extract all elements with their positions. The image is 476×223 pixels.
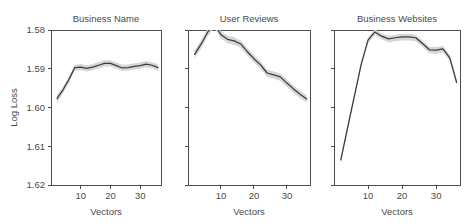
x-tick-label: 30 [431, 190, 442, 201]
x-tick-label: 10 [363, 190, 374, 201]
y-tick-label: 1.59 [27, 63, 46, 74]
y-tick-label: 1.58 [27, 24, 46, 35]
x-axis-title: Vectors [90, 206, 122, 217]
x-axis-title: Vectors [233, 206, 265, 217]
x-tick-label: 10 [216, 190, 227, 201]
panel-title: Business Websites [357, 13, 437, 24]
y-tick-label: 1.62 [27, 179, 46, 190]
y-tick-label: 1.61 [27, 141, 46, 152]
x-tick-label: 20 [397, 190, 408, 201]
y-axis-title: Log Loss [8, 88, 19, 127]
panel-title: Business Name [73, 13, 140, 24]
x-tick-label: 20 [249, 190, 260, 201]
x-tick-label: 20 [105, 190, 116, 201]
x-tick-label: 10 [75, 190, 86, 201]
figure-container: Business Name1.581.591.601.611.62102030V… [0, 0, 476, 223]
multi-panel-line-chart: Business Name1.581.591.601.611.62102030V… [0, 0, 476, 223]
y-tick-label: 1.60 [27, 102, 46, 113]
panel-title: User Reviews [220, 13, 279, 24]
x-axis-title: Vectors [381, 206, 413, 217]
x-tick-label: 30 [282, 190, 293, 201]
x-tick-label: 30 [135, 190, 146, 201]
